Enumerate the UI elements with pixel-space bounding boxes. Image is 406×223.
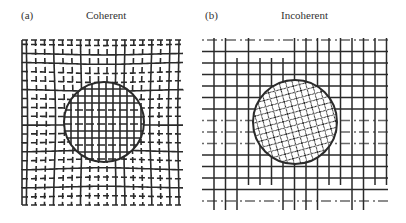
- incoherent-panel: [202, 38, 388, 210]
- coherent-panel: [22, 40, 183, 205]
- lattice-figure: [0, 0, 406, 223]
